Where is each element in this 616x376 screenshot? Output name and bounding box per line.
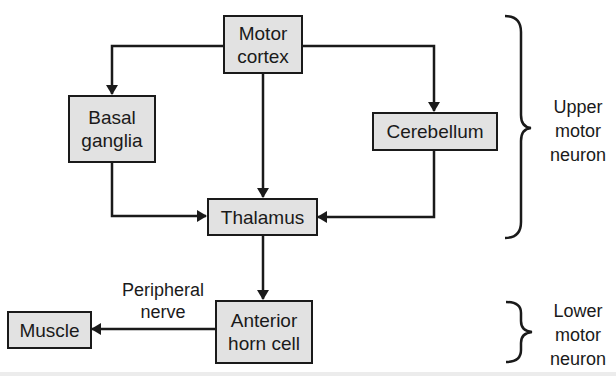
- node-cerebellum: Cerebellum: [372, 112, 498, 151]
- motor-pathway-diagram: Motor cortex Basal ganglia Cerebellum Th…: [0, 0, 616, 376]
- edge-label-peripheral-nerve: Peripheral nerve: [108, 279, 218, 323]
- node-anterior-horn-cell: Anterior horn cell: [215, 300, 313, 364]
- lower-motor-neuron-brace: [506, 302, 532, 362]
- node-basal-ganglia: Basal ganglia: [68, 95, 156, 163]
- edge-motor-to-basal: [112, 46, 223, 94]
- edge-motor-to-cerebellum: [302, 46, 434, 111]
- edge-basal-to-thalamus: [112, 162, 206, 216]
- upper-motor-neuron-brace: [505, 16, 531, 238]
- group-label-lower-motor-neuron: Lower motor neuron: [540, 299, 616, 371]
- bottom-divider: [0, 372, 616, 376]
- node-muscle: Muscle: [7, 311, 92, 349]
- node-motor-cortex: Motor cortex: [223, 15, 303, 74]
- group-label-upper-motor-neuron: Upper motor neuron: [540, 95, 616, 167]
- edge-cerebellum-to-thalamus: [318, 150, 434, 217]
- node-thalamus: Thalamus: [207, 198, 318, 236]
